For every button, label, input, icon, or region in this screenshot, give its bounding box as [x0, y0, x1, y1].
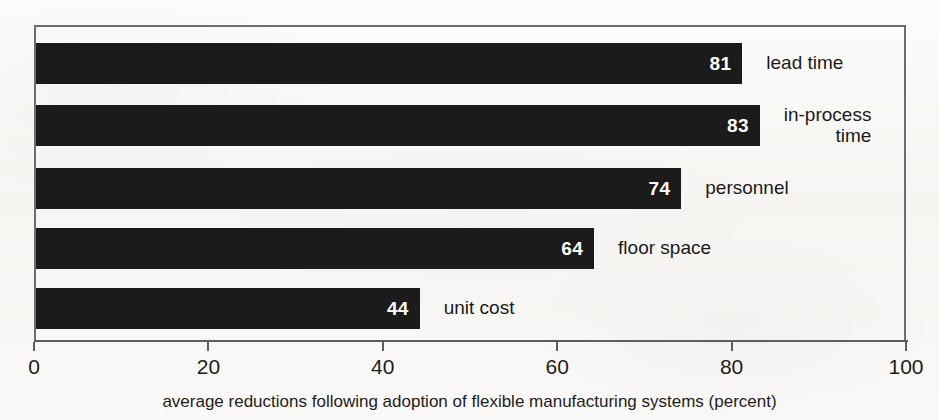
x-axis-tick-label: 60	[546, 355, 569, 379]
bar-row: 44unit cost	[36, 288, 939, 329]
bar: 83	[36, 105, 760, 146]
bar-row: 64floor space	[36, 228, 939, 269]
bar-category-label-line: time	[836, 126, 872, 146]
x-axis-tick	[731, 342, 733, 351]
x-axis-tick-label: 40	[371, 355, 394, 379]
bar: 64	[36, 228, 594, 269]
bar-value-label: 64	[561, 228, 583, 269]
x-axis-tick	[207, 342, 209, 351]
bar-category-label-line: unit cost	[444, 298, 515, 319]
bar: 44	[36, 288, 420, 329]
bar: 81	[36, 43, 742, 84]
x-axis-tick-label: 80	[720, 355, 743, 379]
bar-row: 81lead time	[36, 43, 939, 84]
bar-chart: 81lead time83in-processtime74personnel64…	[0, 0, 939, 420]
chart-caption: average reductions following adoption of…	[0, 392, 939, 412]
bar-category-label: floor space	[618, 228, 711, 269]
bar-category-label: in-processtime	[784, 105, 872, 146]
bar-value-label: 74	[649, 168, 671, 209]
bar-category-label-line: lead time	[766, 53, 843, 74]
bar-category-label-line: personnel	[705, 178, 788, 199]
x-axis-tick	[33, 342, 35, 351]
bar-category-label: personnel	[705, 168, 788, 209]
x-axis-tick	[382, 342, 384, 351]
x-axis-tick-label: 100	[888, 355, 923, 379]
bar-category-label-line: in-process	[784, 105, 872, 125]
x-axis-tick-label: 20	[197, 355, 220, 379]
x-axis-tick-label: 0	[28, 355, 40, 379]
bar-row: 83in-processtime	[36, 105, 939, 146]
bar-value-label: 83	[727, 105, 749, 146]
bars-layer: 81lead time83in-processtime74personnel64…	[0, 0, 939, 420]
x-axis-tick	[556, 342, 558, 351]
bar-category-label-line: floor space	[618, 238, 711, 259]
bar: 74	[36, 168, 681, 209]
x-axis-tick	[905, 342, 907, 351]
bar-value-label: 81	[710, 43, 732, 84]
bar-value-label: 44	[387, 288, 409, 329]
bar-category-label: unit cost	[444, 288, 515, 329]
bar-category-label: lead time	[766, 43, 843, 84]
bar-row: 74personnel	[36, 168, 939, 209]
